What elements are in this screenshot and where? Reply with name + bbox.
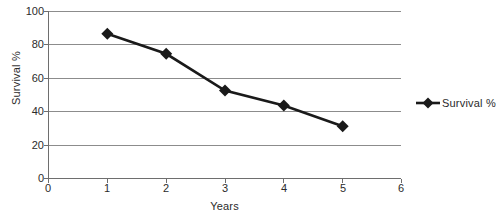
chart-legend: Survival % bbox=[416, 97, 496, 109]
data-point-year-2 bbox=[160, 48, 172, 60]
survival-line-chart: Survival % 100 80 60 40 20 0 bbox=[0, 0, 504, 222]
legend-label-survival: Survival % bbox=[442, 97, 496, 109]
x-tick-label-3: 3 bbox=[213, 183, 237, 194]
x-tick-label-2: 2 bbox=[154, 183, 178, 194]
y-axis bbox=[44, 11, 49, 179]
legend-marker-survival bbox=[416, 97, 440, 109]
data-point-year-1 bbox=[101, 28, 113, 40]
x-tick-label-6: 6 bbox=[389, 183, 413, 194]
data-point-year-5 bbox=[337, 120, 349, 132]
diamond-marker-icon bbox=[423, 98, 434, 109]
data-point-year-4 bbox=[278, 100, 290, 112]
x-tick-label-5: 5 bbox=[331, 183, 355, 194]
plot-area bbox=[0, 0, 504, 222]
x-axis-title: Years bbox=[48, 200, 401, 212]
gridlines bbox=[48, 12, 401, 146]
x-tick-label-1: 1 bbox=[95, 183, 119, 194]
x-tick-label-4: 4 bbox=[272, 183, 296, 194]
data-point-year-3 bbox=[219, 85, 231, 97]
x-tick-label-0: 0 bbox=[36, 183, 60, 194]
series-line-survival bbox=[107, 34, 342, 127]
